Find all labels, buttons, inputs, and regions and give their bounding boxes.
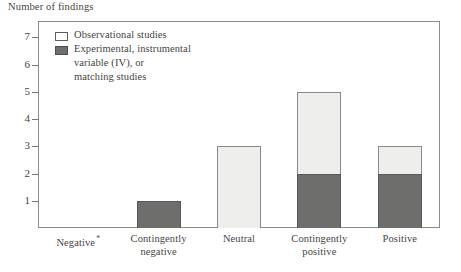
bar-stack[interactable] <box>137 201 181 228</box>
legend-label-experimental-line2: variable (IV), or <box>74 56 285 69</box>
y-axis-tick-label: 1 <box>12 193 30 205</box>
y-axis-tick-label: 6 <box>12 57 30 69</box>
chart-legend: Observational studies Experimental, inst… <box>55 28 285 83</box>
y-axis-tick-label: 2 <box>12 166 30 178</box>
bar-segment-experimental[interactable] <box>378 174 422 228</box>
y-axis-tick <box>32 174 39 175</box>
legend-label-experimental-line1: Experimental, instrumental <box>74 42 191 55</box>
x-axis-label-line1: Positive <box>352 232 448 245</box>
x-axis-label-line2: positive <box>271 245 367 258</box>
y-axis-tick-label: 7 <box>12 30 30 42</box>
y-axis-tick-label: 5 <box>12 84 30 96</box>
legend-label-experimental-line3: matching studies <box>74 70 285 83</box>
bar-segment-experimental[interactable] <box>297 174 341 228</box>
bar-segment-observational[interactable] <box>297 92 341 174</box>
y-axis-tick <box>32 146 39 147</box>
x-axis-label-line2: negative <box>111 245 207 258</box>
legend-item-experimental: Experimental, instrumental <box>55 42 285 55</box>
x-axis-labels: Negative*ContingentlynegativeNeutralCont… <box>38 232 440 270</box>
y-axis-tick <box>32 37 39 38</box>
bar-stack[interactable] <box>378 146 422 228</box>
legend-swatch-observational-icon <box>55 32 68 41</box>
bar-stack[interactable] <box>297 92 341 228</box>
y-axis-tick-label: 3 <box>12 139 30 151</box>
y-axis-tick-label: 4 <box>12 112 30 124</box>
bar-segment-observational[interactable] <box>378 146 422 173</box>
y-axis-tick <box>32 201 39 202</box>
stacked-bar-chart: Number of findings 1234567 Observational… <box>0 0 461 272</box>
legend-swatch-experimental-icon <box>55 46 68 55</box>
bar-segment-observational[interactable] <box>217 146 261 228</box>
bar-segment-experimental[interactable] <box>137 201 181 228</box>
legend-item-observational: Observational studies <box>55 28 285 41</box>
x-axis-label-footnote-marker: * <box>96 234 100 243</box>
y-axis-labels: 1234567 <box>0 0 30 272</box>
y-axis-tick <box>32 92 39 93</box>
y-axis-tick <box>32 119 39 120</box>
y-axis-tick <box>32 65 39 66</box>
legend-label-observational: Observational studies <box>74 28 167 41</box>
x-axis-label: Positive <box>352 232 448 245</box>
bar-stack[interactable] <box>217 146 261 228</box>
